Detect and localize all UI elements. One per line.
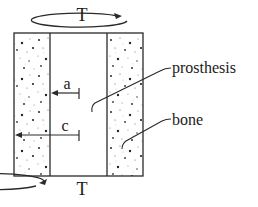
- prosthesis-label: prosthesis: [172, 59, 236, 77]
- bone-left-wall: [14, 33, 50, 176]
- arrowhead-icon: [114, 13, 122, 19]
- torque-label-top: T: [77, 5, 88, 25]
- bone-right-wall: [107, 33, 143, 176]
- bottom-torque: T: [0, 174, 88, 199]
- top-torque: T: [31, 5, 127, 27]
- arrowhead-icon: [51, 90, 58, 96]
- dimension-a: a: [51, 75, 79, 99]
- torque-label-bottom: T: [77, 179, 88, 199]
- dimension-label-c: c: [61, 117, 68, 134]
- torsion-diagram: T a c prosthesis bone T: [0, 0, 258, 207]
- dimension-label-a: a: [63, 75, 70, 92]
- bone-label: bone: [172, 111, 203, 128]
